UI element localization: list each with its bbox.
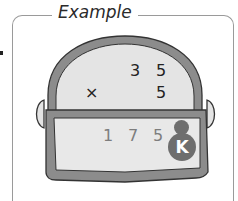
multiplicand-ones: 5 — [156, 62, 166, 80]
calculator-device-illustration — [0, 0, 238, 201]
display-digit-3: 5 — [153, 127, 163, 145]
left-ear — [37, 100, 45, 128]
k-badge-icon: K — [168, 133, 196, 161]
display-digit-1: 1 — [103, 127, 113, 145]
multiplicand-tens: 3 — [130, 62, 140, 80]
display-digit-2: 7 — [128, 127, 138, 145]
multiplier: 5 — [156, 84, 166, 102]
right-ear — [207, 100, 215, 128]
multiply-operator: × — [85, 84, 98, 102]
